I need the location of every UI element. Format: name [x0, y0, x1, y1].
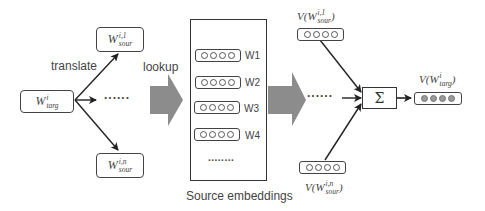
target-word-sub: targ: [46, 102, 58, 110]
sum-icon: Σ: [375, 90, 385, 106]
embedding-label-w2: W2: [245, 77, 260, 88]
output-vector-sub: targ: [440, 80, 452, 88]
embedding-label-w4: W4: [245, 130, 260, 141]
source-word-1-base: W: [108, 32, 118, 47]
embedding-vector-w4: [194, 128, 240, 141]
source-vector-n: [299, 161, 346, 174]
source-vector-n-func: V(: [305, 181, 315, 193]
translate-arrow-bottom: [75, 100, 118, 150]
embedding-label-w3: W3: [244, 103, 259, 114]
translate-ellipsis: ......: [104, 88, 130, 102]
embedding-vector-w2: [195, 76, 241, 89]
source-vector-1-close: ): [331, 10, 335, 22]
output-ellipsis: ......: [307, 86, 333, 100]
source-word-1-sub: sour: [119, 40, 132, 48]
source-vector-n-base: W: [315, 181, 324, 193]
embedding-ellipsis: ........: [208, 152, 234, 163]
source-vector-label-n: V(Wi,nsour): [305, 180, 343, 196]
source-vector-n-close: ): [339, 181, 343, 193]
sum-input-top: [320, 40, 361, 92]
source-word-n-sub: sour: [119, 166, 132, 174]
output-vector-close: ): [452, 73, 456, 85]
source-word-box-1: Wi,1sour: [96, 27, 144, 52]
output-vector-base: W: [429, 73, 438, 85]
source-word-box-n: Wi,nsour: [96, 153, 144, 178]
source-vector-1-base: W: [307, 10, 316, 22]
lookup-block-arrow-icon: [150, 74, 183, 126]
output-block-arrow-icon: [268, 72, 306, 126]
source-vector-1-func: V(: [297, 10, 307, 22]
source-word-n-base: W: [108, 158, 118, 173]
embedding-label-w1: W1: [245, 50, 260, 61]
target-word-base: W: [35, 94, 45, 109]
output-vector-label: V(Witarg): [419, 72, 455, 88]
source-vector-1: [297, 28, 344, 41]
sum-input-bottom: [325, 104, 361, 160]
embedding-vector-w1: [195, 49, 241, 62]
lookup-label: lookup: [143, 60, 178, 74]
diagram-canvas: Witarg Wi,1sour Wi,nsour translate .....…: [0, 0, 485, 211]
embedding-table-caption: Source embeddings: [186, 189, 293, 203]
translate-label: translate: [51, 59, 97, 73]
output-vector: [414, 92, 462, 105]
source-vector-n-sub: sour: [326, 188, 339, 196]
embedding-vector-w3: [194, 101, 240, 114]
source-vector-label-1: V(Wi,1sour): [297, 9, 335, 25]
sum-operator-box: Σ: [362, 87, 397, 109]
source-vector-1-sub: sour: [318, 17, 331, 25]
output-vector-func: V(: [419, 73, 429, 85]
target-word-box: Witarg: [20, 90, 74, 113]
